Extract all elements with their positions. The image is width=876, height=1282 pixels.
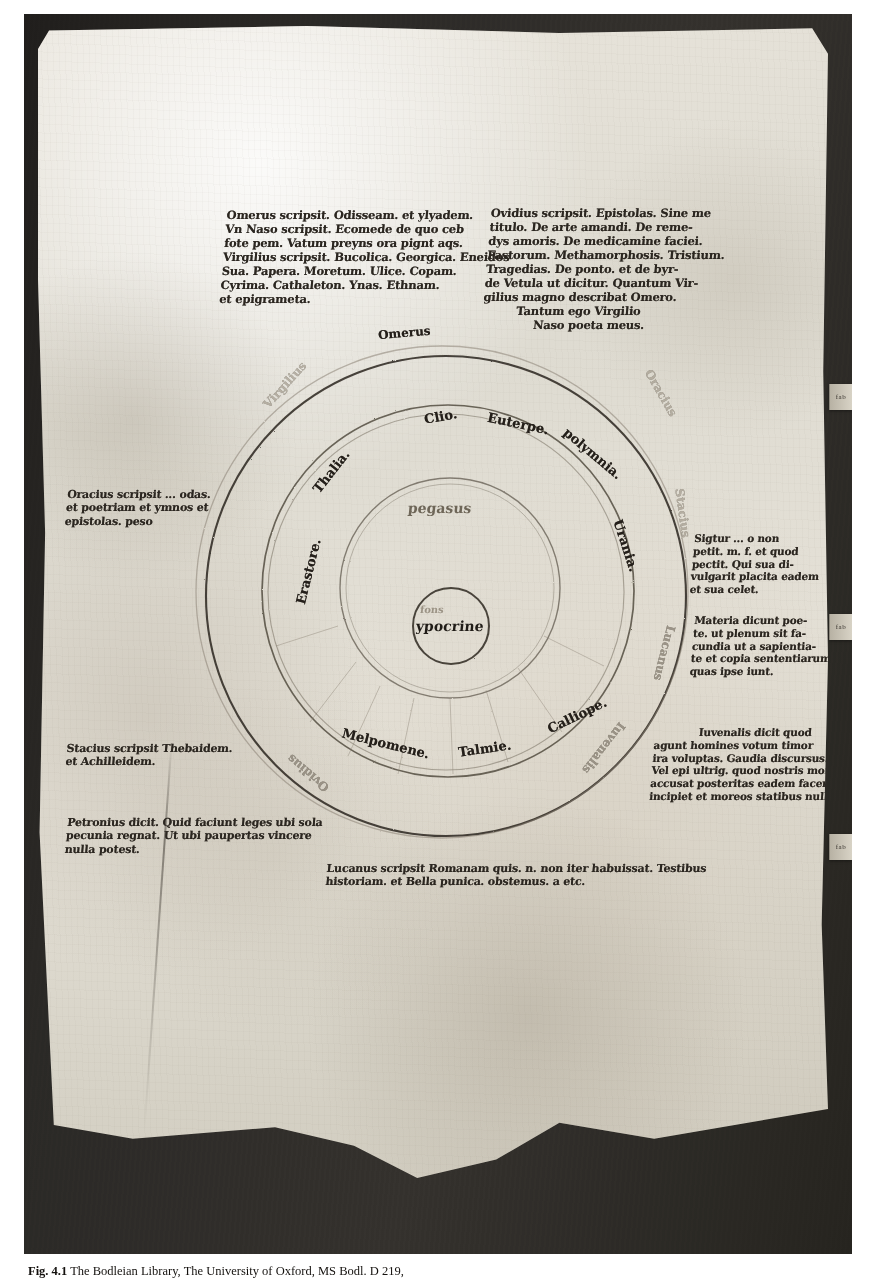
margin-note-bottom-center: Lucanus scripsit Romanam quis. n. non it… xyxy=(325,862,707,889)
poet-label-lucanus: Lucanus xyxy=(651,624,678,682)
edge-tab-2: fab xyxy=(829,614,852,640)
note-line: et sua celet. xyxy=(689,583,818,596)
margin-note-right-middle: Materia dicunt poe- te. ut plenum sit fa… xyxy=(689,614,835,678)
poet-label-iuvenalis: Iuvenalis xyxy=(579,720,628,777)
fons-faint-label: fons xyxy=(419,604,444,615)
note-line: Tantum ego Virgilio xyxy=(482,304,721,318)
note-line: Tragedias. De ponto. et de byr- xyxy=(485,262,724,276)
photographic-plate: fab fab fab xyxy=(24,14,852,1254)
note-line: Oracius scripsit ... odas. xyxy=(67,488,212,501)
note-line: gilius magno describat Omero. xyxy=(483,290,722,304)
figure-caption-label: Fig. 4.1 xyxy=(28,1264,67,1278)
note-line: Vn Naso scripsit. Ecomede de quo ceb xyxy=(225,222,513,236)
note-line: de Vetula ut dicitur. Quantum Vir- xyxy=(484,276,723,290)
muses-circle-diagram xyxy=(38,26,828,1178)
note-line: Fastorum. Methamorphosis. Tristium. xyxy=(487,248,726,262)
note-line: vulgarit placita eadem xyxy=(690,570,819,583)
edge-tab-label: fab xyxy=(830,384,852,410)
poet-label-omerus: Omerus xyxy=(377,324,431,343)
margin-note-right-lower: Iuvenalis dicit quod agunt homines votum… xyxy=(649,726,852,803)
note-line: Naso poeta meus. xyxy=(480,318,719,332)
note-line: Stacius scripsit Thebaidem. xyxy=(66,742,233,755)
muse-label-urania: Urania. xyxy=(611,518,642,574)
note-line: Ovidius scripsit. Epistolas. Sine me xyxy=(490,206,729,220)
poet-label-virgilius: Virgilius xyxy=(260,359,309,411)
edge-tab-label: fab xyxy=(830,834,852,860)
muse-label-talmie: Talmie. xyxy=(457,737,512,759)
poet-label-stacius: Stacius xyxy=(672,488,693,539)
note-line: dys amoris. De medicamine faciei. xyxy=(488,234,727,248)
note-line: petit. m. f. et quod xyxy=(693,545,822,558)
figure-page: fab fab fab xyxy=(0,0,876,1282)
muse-label-erastore: Erastore. xyxy=(293,537,324,605)
muse-label-melpomene: Melpomene. xyxy=(341,725,432,761)
note-line: Iuvenalis dicit quod xyxy=(654,726,852,739)
note-line: pectit. Qui sua di- xyxy=(691,558,820,571)
note-line: te. ut plenum sit fa- xyxy=(693,627,834,640)
note-line: Vel epi ultrig. quod nostris moribus xyxy=(651,764,852,777)
note-line: titulo. De arte amandi. De reme- xyxy=(489,220,728,234)
figure-caption-text: The Bodleian Library, The University of … xyxy=(70,1264,404,1278)
pegasus-ring-label: pegasus xyxy=(407,500,472,516)
edge-tab-3: fab xyxy=(829,834,852,860)
muse-label-clio: Clio. xyxy=(423,406,458,427)
note-line: cundia ut a sapientia- xyxy=(691,640,832,653)
muse-label-thalia: Thalia. xyxy=(310,447,353,496)
poet-label-ovidius: Ovidius xyxy=(284,751,332,794)
note-line: Omerus scripsit. Odisseam. et ylyadem. xyxy=(226,208,514,222)
note-line: agunt homines votum timor xyxy=(653,739,852,752)
note-line: Lucanus scripsit Romanam quis. n. non it… xyxy=(326,862,707,875)
muse-label-euterpe: Euterpe. xyxy=(486,410,550,438)
margin-note-left-middle: Oracius scripsit ... odas. et poetriam e… xyxy=(64,488,211,528)
muse-label-calliope: Calliope. xyxy=(545,695,609,737)
note-line: et Achilleidem. xyxy=(65,755,232,768)
muse-label-polymnia: polymnia. xyxy=(561,425,625,482)
hippocrene-center-label: ypocrine xyxy=(415,618,484,634)
note-line: et epigrameta. xyxy=(219,292,507,306)
note-line: fote pem. Vatum preyns ora pignt aqs. xyxy=(224,236,512,250)
note-line: te et copia sententiarum xyxy=(690,652,831,665)
note-line: pecunia regnat. Ut ubi paupertas vincere xyxy=(65,829,322,842)
note-line: quas ipse iunt. xyxy=(689,665,830,678)
margin-note-top-right: Ovidius scripsit. Epistolas. Sine me tit… xyxy=(480,206,728,332)
note-line: nulla potest. xyxy=(64,843,321,856)
note-line: Materia dicunt poe- xyxy=(694,614,835,627)
note-line: historiam. et Bella punica. obstemus. a … xyxy=(325,875,706,888)
note-line: Petronius dicit. Quid faciunt leges ubi … xyxy=(67,816,324,829)
margin-note-right-upper: Sigtur ... o non petit. m. f. et quod pe… xyxy=(689,532,823,596)
margin-note-left-lower: Stacius scripsit Thebaidem. et Achilleid… xyxy=(65,742,233,769)
note-line: ira voluptas. Gaudia discursus. xyxy=(652,752,852,765)
note-line: et poetriam et ymnos et xyxy=(65,501,210,514)
manuscript-leaf: Omerus Oracius Stacius Lucanus Iuvenalis… xyxy=(38,26,828,1178)
edge-tab-label: fab xyxy=(830,614,852,640)
note-line: epistolas. peso xyxy=(64,515,209,528)
margin-note-top-left: Omerus scripsit. Odisseam. et ylyadem. V… xyxy=(219,208,514,306)
note-line: Sua. Papera. Moretum. Ulice. Copam. xyxy=(221,264,509,278)
note-line: Virgilius scripsit. Bucolica. Georgica. … xyxy=(222,250,510,264)
note-line: Cyrima. Cathaleton. Ynas. Ethnam. xyxy=(220,278,508,292)
note-line: incipiet et moreos statibus nulla fides xyxy=(649,790,852,803)
poet-label-oracius: Oracius xyxy=(642,367,680,419)
note-line: accusat posteritas eadem facere xyxy=(650,777,852,790)
figure-caption: Fig. 4.1 The Bodleian Library, The Unive… xyxy=(28,1264,848,1280)
margin-note-left-bottom: Petronius dicit. Quid faciunt leges ubi … xyxy=(64,816,323,856)
note-line: Sigtur ... o non xyxy=(694,532,823,545)
edge-tab-1: fab xyxy=(829,384,852,410)
